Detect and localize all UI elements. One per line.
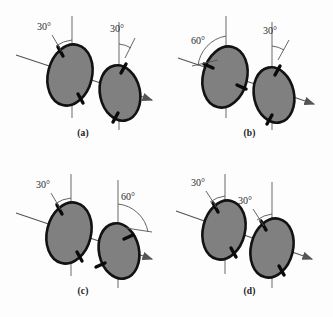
panel-grid: 30° 30° (a) bbox=[0, 0, 333, 317]
panel-d: 30° 30° (d) bbox=[166, 156, 333, 317]
panel-caption-a: (a) bbox=[0, 128, 166, 138]
angle-arc-right bbox=[272, 46, 284, 50]
polarizer-disk-right bbox=[244, 214, 299, 282]
polarizer-disk-right bbox=[94, 219, 145, 282]
polarizer-disk-right bbox=[249, 63, 300, 126]
polarizer-disk-left bbox=[40, 198, 98, 269]
angle-label-right: 30° bbox=[263, 25, 277, 36]
panel-caption-d: (d) bbox=[166, 286, 333, 296]
panel-b: 60° 30° (b) bbox=[166, 0, 333, 156]
angle-label-left: 30° bbox=[36, 179, 50, 190]
angle-label-right: 60° bbox=[121, 191, 135, 202]
polarizer-disk-right bbox=[95, 61, 146, 124]
angle-leader-line-right bbox=[278, 40, 289, 60]
angle-leader-line-right bbox=[253, 209, 264, 226]
angle-label-right: 30° bbox=[238, 195, 252, 206]
panel-caption-b: (b) bbox=[166, 128, 333, 138]
polarizer-disk-left bbox=[196, 42, 254, 113]
angle-label-right: 30° bbox=[110, 23, 124, 34]
angle-leader-line-left bbox=[206, 191, 217, 208]
polarizer-figure: 30° 30° (a) bbox=[0, 0, 333, 317]
panel-a: 30° 30° (a) bbox=[0, 0, 166, 156]
polarizer-disk-left bbox=[41, 40, 99, 111]
panel-caption-c: (c) bbox=[0, 286, 166, 296]
panel-c: 30° 60° (c) bbox=[0, 156, 166, 317]
angle-arc-right bbox=[119, 44, 131, 48]
angle-leader-line-right bbox=[125, 38, 135, 58]
angle-label-left: 60° bbox=[191, 35, 205, 46]
angle-label-left: 30° bbox=[191, 177, 205, 188]
polarizer-disk-left bbox=[196, 196, 251, 264]
angle-label-left: 30° bbox=[37, 21, 51, 32]
